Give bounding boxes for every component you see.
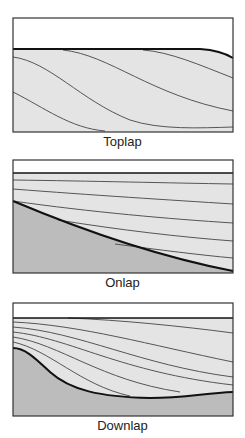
downlap-label: Downlap [0,418,245,433]
downlap-panel: Downlap [0,0,245,438]
downlap-diagram [0,0,245,438]
